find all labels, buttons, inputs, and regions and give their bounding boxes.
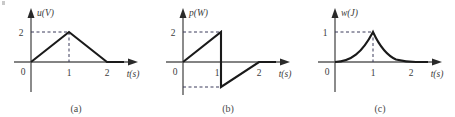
chart-c-caption: (c) xyxy=(304,103,455,114)
chart-panel-a: 2 0 1 2 u(V) t(s) (a) xyxy=(0,0,152,117)
chart-b-y-axis-arrow xyxy=(180,8,187,18)
chart-c-y-axis-arrow xyxy=(332,8,339,18)
chart-a-x-axis-label: t(s) xyxy=(127,69,140,80)
chart-a-y-axis-label: u(V) xyxy=(37,8,54,19)
chart-b-ytick-2: 2 xyxy=(171,28,176,38)
chart-a-xtick-1: 1 xyxy=(67,68,72,78)
chart-b-xtick-1: 1 xyxy=(215,68,220,78)
chart-a-ytick-2: 2 xyxy=(19,28,24,38)
chart-b-xtick-2: 2 xyxy=(257,68,262,78)
chart-b-origin-label: 0 xyxy=(173,67,178,77)
chart-c-ytick-1: 1 xyxy=(323,28,328,38)
chart-c-origin-label: 0 xyxy=(325,67,330,77)
chart-b-x-axis-arrow xyxy=(280,59,290,66)
chart-c-svg: 1 0 1 2 w(J) t(s) xyxy=(304,0,455,100)
chart-a-data-curve xyxy=(31,32,124,62)
chart-a-caption: (a) xyxy=(0,103,152,114)
figure-container: 2 0 1 2 u(V) t(s) (a) 2 0 1 2 p( xyxy=(0,0,455,117)
chart-a-y-axis-arrow xyxy=(28,8,35,18)
chart-b-y-axis-label: p(W) xyxy=(188,8,208,19)
chart-b-svg: 2 0 1 2 p(W) t(s) xyxy=(152,0,304,100)
chart-b-caption: (b) xyxy=(152,103,304,114)
chart-a-origin-label: 0 xyxy=(21,67,26,77)
chart-b-data-curve xyxy=(183,32,276,87)
chart-c-xtick-1: 1 xyxy=(371,68,376,78)
chart-c-data-curve xyxy=(335,32,428,62)
chart-a-xtick-2: 2 xyxy=(105,68,110,78)
chart-c-x-axis-label: t(s) xyxy=(431,69,444,80)
chart-c-x-axis-arrow xyxy=(432,59,442,66)
chart-a-svg: 2 0 1 2 u(V) t(s) xyxy=(0,0,152,100)
chart-c-xtick-2: 2 xyxy=(409,68,414,78)
chart-b-x-axis-label: t(s) xyxy=(279,69,292,80)
chart-a-x-axis-arrow xyxy=(128,59,138,66)
chart-c-y-axis-label: w(J) xyxy=(341,8,358,19)
chart-panel-b: 2 0 1 2 p(W) t(s) (b) xyxy=(152,0,304,117)
chart-panel-c: 1 0 1 2 w(J) t(s) (c) xyxy=(304,0,455,117)
